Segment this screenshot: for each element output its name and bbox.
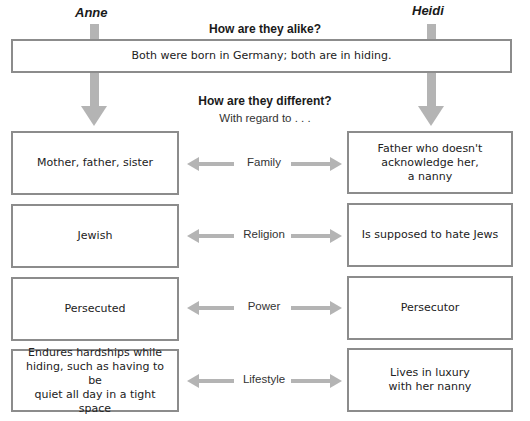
family-connector: Family: [187, 157, 342, 171]
category-label-religion: Religion: [234, 228, 294, 240]
right-arrow-icon: [330, 301, 342, 315]
power-connector: Power: [187, 301, 342, 315]
anne-family-box: Mother, father, sister: [11, 131, 179, 195]
right-arrow-icon: [330, 229, 342, 243]
arrow-shaft: [197, 379, 237, 383]
heidi-family-box: Father who doesn't acknowledge her, a na…: [347, 131, 513, 194]
anne-religion-box: Jewish: [11, 204, 179, 268]
arrow-shaft: [197, 306, 237, 310]
arrow-shaft: [291, 306, 333, 310]
column-label-heidi: Heidi: [412, 3, 444, 18]
heidi-lifestyle-box: Lives in luxury with her nanny: [347, 348, 513, 412]
different-heading: How are they different?: [0, 94, 530, 108]
column-label-anne: Anne: [75, 5, 108, 20]
category-label-family: Family: [234, 156, 294, 168]
heidi-power-box: Persecutor: [347, 276, 513, 340]
lifestyle-connector: Lifestyle: [187, 374, 342, 388]
anne-lifestyle-box: Endures hardships while hiding, such as …: [11, 349, 179, 412]
alike-heading: How are they alike?: [0, 22, 530, 36]
arrow-shaft: [197, 162, 237, 166]
arrow-shaft: [291, 379, 333, 383]
category-label-lifestyle: Lifestyle: [234, 373, 294, 385]
alike-box: Both were born in Germany; both are in h…: [11, 39, 512, 73]
right-arrow-icon: [330, 157, 342, 171]
arrow-shaft: [197, 234, 237, 238]
different-subheading: With regard to . . .: [0, 112, 530, 124]
arrow-shaft: [291, 162, 333, 166]
heidi-religion-box: Is supposed to hate Jews: [347, 203, 513, 267]
anne-power-box: Persecuted: [11, 277, 179, 341]
arrow-shaft: [291, 234, 333, 238]
right-arrow-icon: [330, 374, 342, 388]
category-label-power: Power: [234, 300, 294, 312]
religion-connector: Religion: [187, 229, 342, 243]
